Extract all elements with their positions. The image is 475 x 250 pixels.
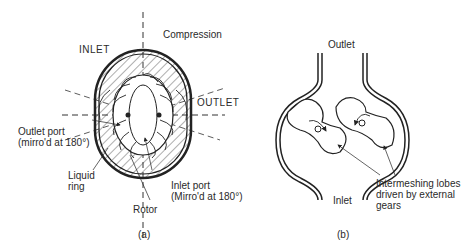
inlet-port-label: Inlet port (Mirro'd at 180°) — [171, 180, 242, 202]
caption-a: (a) — [138, 229, 150, 240]
rotor-hub — [129, 85, 157, 145]
left-lobe-shaft — [315, 126, 321, 132]
compression-label: Compression — [163, 29, 222, 40]
lobes-leader-2 — [384, 146, 395, 175]
port-dot-left — [126, 113, 131, 118]
right-lobe-shaft — [359, 120, 365, 126]
lobes-label: Intermeshing lobes driven by external ge… — [376, 178, 461, 211]
liquid-ring-label: Liquid ring — [68, 170, 95, 192]
outlet-port-label: Outlet port (mirro'd at 180°) — [18, 126, 89, 148]
port-dot-right — [157, 113, 162, 118]
outlet-label-b: Outlet — [328, 39, 355, 50]
inlet-label-b: Inlet — [333, 195, 352, 206]
diagram-canvas — [0, 0, 475, 250]
caption-b: (b) — [337, 229, 349, 240]
rotor-label: Rotor — [133, 204, 157, 215]
lobes-leader-1 — [338, 145, 380, 175]
inlet-label-a: INLET — [79, 44, 110, 55]
outlet-label-a: OUTLET — [197, 97, 239, 108]
